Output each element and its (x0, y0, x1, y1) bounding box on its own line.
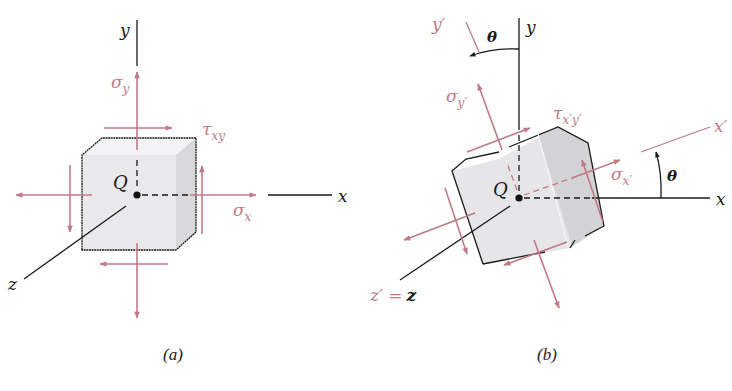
y-prime-axis (466, 22, 479, 52)
theta-label-right: θ (667, 167, 677, 185)
theta-arc-x (656, 152, 661, 198)
sigma-x-label: σx (233, 200, 252, 224)
point-q-label: Q (493, 179, 508, 200)
z-axis-label: z (7, 274, 18, 294)
caption-a: (a) (163, 345, 183, 364)
point-q-label: Q (113, 172, 128, 193)
sigma-x-prime-label: σx′ (611, 164, 632, 188)
y-axis-label: y (119, 20, 130, 40)
panel-b: y y′ θ x x′ θ z′ =z Q (369, 14, 728, 364)
tau-x-prime-y-prime-label: τx′y′ (553, 103, 582, 127)
point-q (515, 194, 522, 201)
panel-a: y x z Q σy σx τxy (a (7, 20, 348, 364)
x-axis-label: x (716, 189, 726, 209)
tau-xy-label: τxy (202, 119, 225, 143)
stress-transformation-figure: y x z Q σy σx τxy (a (0, 0, 732, 391)
caption-b: (b) (537, 345, 557, 364)
y-prime-axis-label: y′ (431, 14, 446, 34)
x-prime-axis (641, 127, 710, 152)
theta-arc-y (470, 49, 519, 56)
x-prime-axis-label: x′ (714, 116, 728, 136)
point-q (133, 191, 140, 198)
stress-element-rotated-cube (452, 127, 604, 264)
sigma-y-label: σy (111, 72, 130, 96)
theta-label-top: θ (487, 28, 497, 46)
cube-front-face (82, 155, 176, 250)
sigma-y-prime-label: σy′ (446, 86, 467, 110)
z-axis-label: z′ =z (369, 285, 416, 305)
cube-side-face (176, 138, 196, 250)
y-axis-label: y (525, 17, 536, 37)
x-axis-label: x (338, 186, 348, 206)
